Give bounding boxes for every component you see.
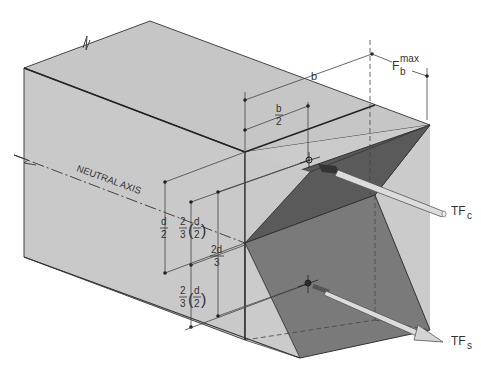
two-d-num: 2d: [211, 244, 222, 255]
beam-stress-diagram: NEUTRAL AXIS b b 2 F max b d 2 2 3 ( d 2…: [0, 0, 481, 367]
paren-d-den: 2: [194, 229, 200, 240]
tfc-sub: c: [467, 210, 472, 221]
half-d-num: d: [161, 216, 167, 227]
half-b-num: b: [276, 103, 282, 114]
tfs-sub: s: [467, 340, 472, 351]
two-thirds-num: 2: [180, 216, 186, 227]
two-thirds2-den: 3: [180, 298, 186, 309]
fb-max-label: F: [392, 59, 399, 73]
paren-d2-num: d: [194, 285, 200, 296]
fb-max-sup: max: [400, 53, 419, 64]
tfs-label: TF: [451, 334, 466, 348]
half-d-den: 2: [161, 229, 167, 240]
fb-max-sub: b: [400, 66, 406, 77]
two-thirds-den: 3: [180, 229, 186, 240]
paren2-close: ): [201, 291, 206, 308]
paren-d-num: d: [194, 216, 200, 227]
width-b-label: b: [311, 70, 317, 82]
paren-d2-den: 2: [194, 298, 200, 309]
paren-close: ): [201, 222, 206, 239]
two-d-den: 3: [214, 257, 220, 268]
two-thirds2-num: 2: [180, 285, 186, 296]
tfc-label: TF: [451, 204, 466, 218]
half-b-den: 2: [276, 116, 282, 127]
